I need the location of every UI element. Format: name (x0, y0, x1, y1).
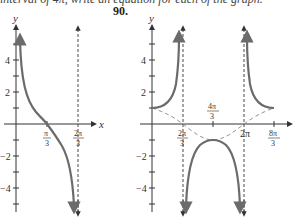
right-x-tick-8pi3-den: 3 (271, 139, 275, 148)
right-x-tick-2pi: 2π (240, 128, 250, 139)
right-y-tick-neg2: −2 (136, 151, 147, 162)
right-sec-branch-left (152, 38, 179, 108)
right-y-axis-label: y (148, 12, 154, 24)
left-x-axis-label: x (98, 118, 104, 130)
right-x-tick-4pi3-den: 3 (210, 112, 214, 121)
right-y-tick-4: 4 (141, 55, 146, 66)
right-x-tick-4pi3-num: 4π (208, 102, 216, 111)
right-sec-branch-right (247, 38, 274, 108)
right-x-tick-2pi3-num: 2π (178, 129, 186, 138)
right-y-tick-neg4: −4 (136, 183, 147, 194)
left-y-axis-label: y (12, 12, 18, 24)
left-graph: y x 4 2 −2 −4 π 3 2π 3 (0, 12, 104, 214)
left-cot-curve (20, 40, 74, 206)
left-x-tick-pi3-num: π (44, 129, 48, 138)
right-x-tick-8pi3-num: 8π (269, 129, 277, 138)
right-graph: y 4 2 −2 −4 2π 3 4π 3 2π 8π 3 (136, 12, 290, 214)
left-y-tick-neg4: −4 (0, 183, 11, 194)
left-y-tick-4: 4 (5, 55, 10, 66)
left-y-tick-2: 2 (5, 87, 10, 98)
right-y-tick-2: 2 (141, 87, 146, 98)
left-y-tick-neg2: −2 (0, 151, 11, 162)
left-x-tick-pi3-den: 3 (45, 139, 49, 148)
right-sec-branch-middle (186, 140, 240, 206)
graphs-canvas: y x 4 2 −2 −4 π 3 2π 3 (0, 0, 299, 218)
